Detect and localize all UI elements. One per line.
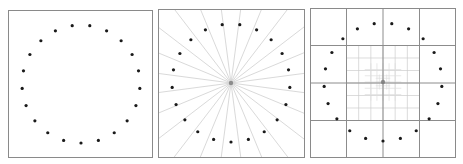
data-point [229,140,232,143]
data-point [54,29,57,32]
data-point [71,24,74,27]
data-point [174,103,177,106]
spoke-line [109,0,231,83]
data-point [39,39,42,42]
data-point [183,118,186,121]
data-point [356,27,359,30]
data-point [436,102,439,105]
panel-frame [9,11,153,158]
data-point [138,87,141,90]
data-point [212,138,215,141]
data-point [280,52,283,55]
data-point [189,38,192,41]
spoke-line [231,6,416,83]
spoke-line [33,57,231,83]
data-point [221,23,224,26]
data-point [415,129,418,132]
data-point [330,51,333,54]
data-point [22,69,25,72]
data-point [440,85,443,88]
spoke-line [231,83,353,164]
data-point [263,130,266,133]
data-point [196,130,199,133]
data-point [24,104,27,107]
spoke-line [231,83,429,109]
data-point [171,86,174,89]
data-point [255,28,258,31]
data-point [113,131,116,134]
spoke-line [72,0,231,83]
data-point [407,27,410,30]
spoke-line [231,83,308,164]
data-point [364,137,367,140]
data-point [62,139,65,142]
data-point [204,28,207,31]
data-point [120,39,123,42]
data-point [97,139,100,142]
data-point [422,37,425,40]
data-point [324,67,327,70]
panel-content [310,8,456,158]
data-point [105,29,108,32]
spoke-line [205,83,231,164]
spoke-line [154,83,231,164]
data-point [399,137,402,140]
data-point [46,131,49,134]
spoke-line [231,0,308,83]
spoke-line [231,57,429,83]
spoke-line [154,0,231,83]
panel-points-only [9,11,153,158]
data-point [326,102,329,105]
spoke-line [205,0,231,83]
spoke-line [72,83,231,164]
data-point [390,22,393,25]
data-point [178,52,181,55]
center-node [381,80,385,84]
figure-canvas [0,0,463,164]
data-point [28,53,31,56]
spoke-line [231,0,257,83]
data-point [79,141,82,144]
data-point [381,139,384,142]
data-point [284,103,287,106]
data-point [323,85,326,88]
spoke-line [33,83,231,109]
panel-quadtree-grid [310,8,456,158]
data-point [348,129,351,132]
data-point [276,118,279,121]
data-point [270,38,273,41]
data-point [172,68,175,71]
data-point [238,23,241,26]
center-node [229,81,233,85]
spoke-line [231,0,353,83]
data-point [134,104,137,107]
data-point [247,138,250,141]
data-point [21,87,24,90]
data-point [88,24,91,27]
data-point [428,117,431,120]
data-point [33,119,36,122]
data-point [288,86,291,89]
data-point [432,51,435,54]
panel-content [21,24,142,145]
data-point [130,53,133,56]
data-point [373,22,376,25]
spoke-line [109,83,231,164]
spoke-line [231,83,257,164]
data-point [341,37,344,40]
data-point [137,69,140,72]
data-point [335,117,338,120]
data-point [287,68,290,71]
data-point [126,119,129,122]
spoke-line [46,83,231,160]
data-point [439,67,442,70]
